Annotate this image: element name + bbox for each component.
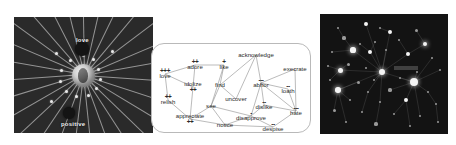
highlighted-node-label — [394, 66, 418, 70]
lattice-node-idolize: idolize++ — [184, 81, 201, 93]
lattice-node-uncover: uncover — [225, 96, 247, 102]
star-node — [410, 78, 418, 86]
lattice-node-relish: ++relish — [161, 94, 176, 106]
polarity-sign: ++ — [184, 87, 201, 92]
starfield-edge — [338, 82, 358, 90]
star-node — [404, 98, 408, 102]
star-node — [388, 88, 391, 91]
lattice-node-hate: ---hate — [290, 105, 302, 117]
satellite-node — [92, 58, 95, 61]
lattice-node-find: find — [215, 82, 225, 88]
three-panel-figure: lovepositive +++love++adore+likeidolize+… — [0, 0, 456, 145]
word-label: acknowledge — [238, 52, 274, 58]
starfield-edge — [394, 100, 406, 114]
starfield-edge — [406, 100, 410, 126]
satellite-node — [75, 95, 78, 98]
satellite-node — [59, 80, 62, 83]
lattice-node-notice: notice — [217, 122, 233, 128]
word-label: love — [159, 74, 170, 80]
word-label: abhor — [253, 83, 269, 89]
lattice-node-like: +like — [219, 59, 228, 71]
lattice-node-disapprove: -disapprove — [236, 110, 266, 122]
starfield-edge — [380, 72, 382, 102]
hub-node — [72, 64, 95, 87]
star-node — [335, 87, 340, 92]
lattice-node-acknowledge: acknowledge — [238, 52, 274, 58]
node-label-positive: positive — [61, 121, 85, 127]
word-label: relish — [161, 100, 176, 106]
starfield-edge — [338, 90, 346, 122]
satellite-node — [87, 94, 90, 97]
starfield-edge — [408, 44, 425, 54]
satellite-node — [65, 90, 68, 93]
lattice-node-appreciate: appreciate++ — [176, 113, 204, 125]
word-label: like — [219, 65, 228, 71]
lattice-node-adore: ++adore — [187, 59, 203, 71]
star-node — [374, 122, 377, 125]
star-node — [350, 47, 355, 52]
lattice-node-see: see — [206, 103, 216, 109]
star-node — [342, 36, 345, 39]
radial-graph-panel: lovepositive — [14, 17, 153, 133]
star-node — [368, 50, 372, 54]
satellite-node — [95, 87, 98, 90]
satellite-node — [69, 59, 72, 62]
lattice-node-execrate: execrate — [283, 66, 306, 72]
star-node — [357, 81, 360, 84]
lattice-node-despise: --despise — [262, 121, 283, 133]
satellite-node — [60, 69, 63, 72]
word-label: adore — [187, 65, 203, 71]
lattice-node-love: +++love — [159, 68, 170, 80]
word-label: find — [215, 82, 225, 88]
polarity-sign: ++ — [176, 119, 204, 124]
word-label: disapprove — [236, 116, 266, 122]
radial-ray — [84, 17, 154, 76]
lattice-node-loath: --loath — [281, 83, 294, 95]
radial-graph-canvas: lovepositive — [14, 17, 153, 133]
satellite-node — [97, 68, 100, 71]
starfield-edge — [334, 90, 338, 110]
star-node — [364, 22, 368, 26]
starfield-canvas — [320, 14, 448, 134]
word-label: notice — [217, 122, 233, 128]
star-node — [379, 69, 385, 75]
starfield-edge — [366, 24, 382, 72]
lattice-node-abhor: ---abhor — [253, 77, 269, 89]
satellite-node — [50, 100, 53, 103]
word-label: hate — [290, 111, 302, 117]
word-label: despise — [262, 127, 283, 133]
word-label: loath — [281, 89, 294, 95]
satellite-node — [99, 78, 102, 81]
starfield-edge — [436, 104, 438, 122]
word-label: uncover — [225, 96, 247, 102]
word-label: see — [206, 103, 216, 109]
starfield-edge — [340, 70, 382, 72]
dark-node — [63, 107, 75, 119]
starfield-edge — [414, 82, 420, 116]
starfield-edge — [362, 92, 368, 112]
starfield-graph-panel — [320, 14, 448, 134]
satellite-node — [55, 52, 58, 55]
radial-ray — [14, 17, 84, 75]
word-label: execrate — [283, 66, 306, 72]
star-node — [333, 109, 336, 112]
node-label-love: love — [76, 37, 89, 43]
star-node — [338, 68, 343, 73]
star-node — [347, 63, 350, 66]
star-node — [415, 29, 418, 32]
starfield-edge — [376, 102, 380, 124]
word-lattice-panel: +++love++adore+likeidolize++++relishappr… — [151, 43, 311, 133]
satellite-node — [111, 50, 114, 53]
dark-node — [75, 42, 89, 56]
